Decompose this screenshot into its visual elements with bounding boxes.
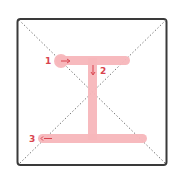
stroke-label-1: 1 xyxy=(45,56,51,66)
stroke-order-diagram: 1 2 3 xyxy=(0,0,175,176)
stroke-label-2: 2 xyxy=(100,66,106,76)
stroke-label-3: 3 xyxy=(29,134,35,144)
stroke-3 xyxy=(38,134,147,143)
